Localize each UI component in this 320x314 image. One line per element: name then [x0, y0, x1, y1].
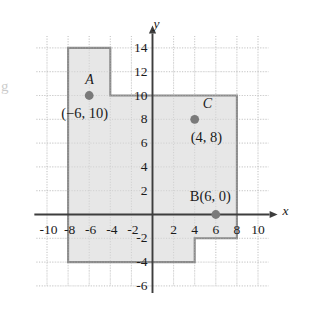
point-label-b: B(6, 0)	[190, 189, 231, 204]
x-axis-arrowhead	[270, 211, 278, 218]
y-tick-neg2: -2	[136, 231, 147, 245]
x-tick-6: 6	[212, 223, 219, 237]
x-tick-neg4: -4	[106, 223, 117, 237]
x-tick-neg6: -6	[85, 223, 96, 237]
y-tick-neg6: -6	[136, 279, 147, 293]
y-tick-neg4: -4	[136, 255, 147, 269]
x-tick-10: 10	[251, 223, 265, 237]
y-tick-14: 14	[134, 41, 148, 55]
x-tick-2: 2	[170, 223, 177, 237]
y-tick-2: 2	[141, 184, 148, 198]
y-tick-12: 12	[134, 65, 148, 79]
data-point-marker[interactable]	[85, 91, 94, 100]
point-coord-a: (−6, 10)	[61, 106, 108, 121]
x-tick-8: 8	[234, 223, 241, 237]
point-coord-c: (4, 8)	[191, 130, 222, 145]
y-tick-4: 4	[141, 160, 148, 174]
x-axis-label: x	[283, 204, 289, 218]
coordinate-plane-figure: g y x A (−6, 10) C (4, 8) B(6, 0) -10-8-…	[0, 0, 320, 314]
plot-svg	[0, 0, 320, 314]
point-label-c: C	[203, 97, 212, 111]
x-tick-neg8: -8	[64, 223, 75, 237]
y-tick-6: 6	[141, 136, 148, 150]
x-tick-4: 4	[191, 223, 198, 237]
data-point-marker[interactable]	[211, 210, 220, 219]
y-axis-label: y	[154, 17, 160, 31]
data-point-marker[interactable]	[190, 115, 199, 124]
y-tick-8: 8	[141, 112, 148, 126]
y-tick-10: 10	[134, 89, 148, 103]
x-tick-neg10: -10	[40, 223, 58, 237]
point-label-a: A	[85, 73, 94, 87]
